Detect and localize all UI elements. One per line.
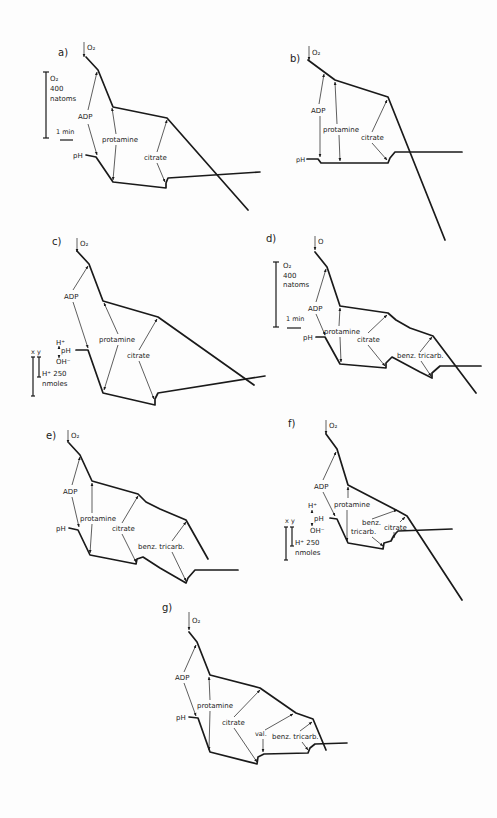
- scale-h-value: H⁺ 250: [295, 539, 320, 547]
- panel-label: d): [266, 233, 276, 244]
- h-plus-label: H⁺: [56, 339, 65, 347]
- ph-trace: [76, 350, 265, 405]
- scale-o2-title: O₂: [50, 75, 59, 83]
- panel-c: c) O₂ H⁺ pH OH⁻ x y H⁺ 250 nmoles ADP pr…: [31, 236, 265, 405]
- scale-h-unit: nmoles: [42, 380, 68, 388]
- oh-minus-label: OH⁻: [310, 527, 325, 535]
- ph-label: pH: [61, 347, 71, 355]
- oxygen-trace: [77, 251, 254, 385]
- panel-label: e): [46, 430, 56, 441]
- panel-a: a) O₂ O₂ 400 natoms 1 min pH ADP protami…: [43, 42, 260, 210]
- ph-trace: [330, 518, 452, 549]
- citrate-label: citrate: [357, 336, 380, 344]
- panel-g: g) O₂ pH ADP protamine citrate val. benz…: [162, 602, 347, 764]
- o2-label: O₂: [329, 422, 338, 430]
- ph-trace: [189, 717, 347, 764]
- adp-label: ADP: [78, 113, 92, 121]
- o2-label: O: [318, 238, 324, 246]
- tricarb-label-line2: tricarb.: [351, 528, 376, 536]
- citrate-label: citrate: [361, 134, 384, 142]
- panel-label: g): [162, 602, 172, 613]
- xy-scale-label: x y: [285, 517, 295, 525]
- ph-trace: [86, 155, 260, 188]
- scale-time-label: 1 min: [286, 315, 304, 323]
- scale-h-value: H⁺ 250: [42, 370, 67, 378]
- citrate-label: citrate: [144, 154, 167, 162]
- protamine-label: protamine: [80, 515, 116, 523]
- benz-tricarb-label: benz. tricarb.: [272, 733, 319, 741]
- panel-b: b) O₂ pH ADP protamine citrate: [290, 46, 462, 240]
- o2-label: O₂: [312, 49, 321, 57]
- protamine-label: protamine: [334, 501, 370, 509]
- scale-o2-unit: natoms: [283, 281, 310, 289]
- protamine-label: protamine: [102, 136, 138, 144]
- citrate-label: citrate: [127, 352, 150, 360]
- adp-label: ADP: [308, 305, 322, 313]
- adp-label: ADP: [64, 293, 78, 301]
- oh-minus-label: OH⁻: [56, 358, 71, 366]
- scale-o2-value: 400: [50, 85, 63, 93]
- xy-scale-label: x y: [31, 348, 41, 356]
- protamine-label: protamine: [99, 336, 135, 344]
- panel-label: a): [58, 47, 68, 58]
- oxygen-trace: [69, 443, 208, 559]
- ph-trace: [69, 528, 238, 583]
- benz-tricarb-label: benz. tricarb.: [397, 352, 444, 360]
- oxygen-trace: [326, 434, 462, 600]
- h-plus-label: H⁺: [308, 502, 317, 510]
- panel-label: f): [288, 418, 296, 429]
- valinomycin-label: val.: [255, 730, 267, 738]
- panel-e: e) O₂ pH ADP protamine citrate benz. tri…: [46, 430, 238, 583]
- ph-label: pH: [296, 156, 305, 164]
- oxygen-trace: [308, 60, 445, 240]
- adp-label: ADP: [63, 488, 77, 496]
- scale-o2-title: O₂: [283, 262, 292, 270]
- o2-label: O₂: [192, 617, 201, 625]
- scale-o2-unit: natoms: [50, 95, 77, 103]
- oxygen-trace: [86, 57, 248, 210]
- scale-time-label: 1 min: [56, 128, 74, 136]
- adp-label: ADP: [314, 483, 328, 491]
- panel-d: d) O O₂ 400 natoms 1 min pH ADP protamin…: [266, 233, 481, 393]
- benz-tricarb-label: benz. tricarb.: [138, 543, 185, 551]
- adp-label: ADP: [311, 107, 325, 115]
- citrate-label: citrate: [384, 524, 407, 532]
- mitochondrial-respiration-figure: a) O₂ O₂ 400 natoms 1 min pH ADP protami…: [0, 0, 497, 818]
- o2-label: O₂: [71, 432, 80, 440]
- benz-label-line1: benz.: [362, 519, 381, 527]
- adp-label: ADP: [175, 674, 189, 682]
- protamine-label: protamine: [323, 126, 359, 134]
- scale-h-unit: nmoles: [295, 549, 321, 557]
- citrate-label: citrate: [112, 525, 135, 533]
- o2-label: O₂: [80, 240, 89, 248]
- panel-f: f) O₂ H⁺ pH OH⁻ x y H⁺ 250 nmoles ADP pr…: [284, 418, 462, 600]
- protamine-label: protamine: [197, 702, 233, 710]
- o2-label: O₂: [87, 44, 96, 52]
- ph-label: pH: [176, 714, 186, 722]
- scale-o2-value: 400: [283, 272, 296, 280]
- citrate-label: citrate: [222, 719, 245, 727]
- panel-label: c): [52, 236, 61, 247]
- ph-label: pH: [56, 525, 66, 533]
- panel-label: b): [290, 53, 300, 64]
- ph-label: pH: [73, 152, 83, 160]
- protamine-label: protamine: [324, 328, 360, 336]
- ph-label: pH: [314, 515, 324, 523]
- ph-label: pH: [303, 334, 313, 342]
